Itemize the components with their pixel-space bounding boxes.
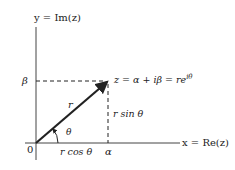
alpha-tick-label: α xyxy=(105,146,112,157)
horizontal-component-label: r cos θ xyxy=(60,146,92,157)
radius-vector xyxy=(36,82,107,143)
angle-arc xyxy=(53,129,58,143)
radius-label: r xyxy=(68,99,74,110)
point-z-label: z = α + iβ = reiθ xyxy=(113,73,193,85)
vertical-component-label: r sin θ xyxy=(113,108,144,119)
complex-plane-diagram: y = Im(z) x = Re(z) 0 β α z = α + iβ = r… xyxy=(0,0,235,170)
y-axis-label: y = Im(z) xyxy=(33,12,81,23)
origin-label: 0 xyxy=(27,144,33,155)
beta-tick-label: β xyxy=(21,75,28,86)
point-z-text: z = α + iβ = re xyxy=(113,74,186,85)
angle-label: θ xyxy=(66,127,72,137)
x-axis-label: x = Re(z) xyxy=(182,137,229,148)
point-z-exponent: iθ xyxy=(186,73,193,81)
